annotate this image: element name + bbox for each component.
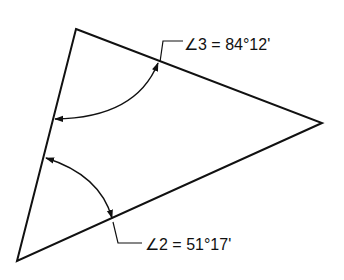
angle-2-label: ∠2 = 51°17': [145, 236, 231, 253]
angle-2-leader: [113, 222, 142, 243]
angle-3-arc: [55, 63, 158, 119]
triangle-diagram: ∠3 = 84°12' ∠2 = 51°17': [0, 0, 344, 280]
angle-3-leader: [160, 41, 183, 62]
angle-2-arc: [46, 158, 112, 218]
angle-3-label: ∠3 = 84°12': [184, 36, 270, 53]
triangle-outline: [17, 29, 322, 261]
